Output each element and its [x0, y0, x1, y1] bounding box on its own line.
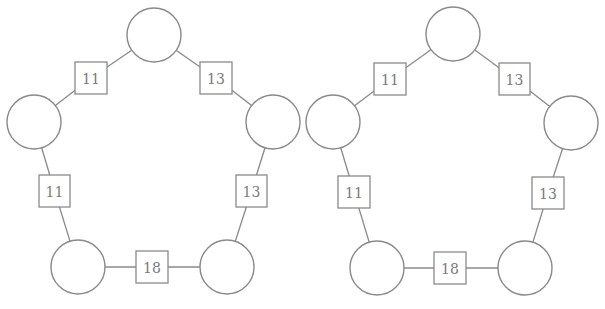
empty-circle — [544, 96, 598, 150]
value-box-bottom: 18 — [434, 252, 466, 284]
box-value: 11 — [82, 71, 100, 87]
circle-node-bottom-left — [350, 241, 404, 295]
value-box-bottom: 18 — [136, 251, 168, 283]
empty-circle — [498, 241, 552, 295]
box-value: 11 — [381, 72, 399, 88]
empty-circle — [51, 240, 105, 294]
box-value: 18 — [143, 260, 161, 276]
circle-node-bottom-right — [498, 241, 552, 295]
empty-circle — [200, 240, 254, 294]
value-box-top-left: 11 — [374, 63, 406, 95]
value-box-right: 13 — [532, 177, 564, 209]
value-box-top-right: 13 — [499, 63, 530, 95]
value-box-left: 11 — [338, 176, 370, 208]
value-box-right: 13 — [236, 175, 267, 207]
empty-circle — [7, 95, 61, 149]
box-value: 11 — [46, 184, 64, 200]
value-box-top-right: 13 — [200, 62, 232, 94]
empty-circle — [127, 8, 181, 62]
box-value: 13 — [506, 72, 524, 88]
empty-circle — [426, 7, 480, 61]
circle-node-bottom-left — [51, 240, 105, 294]
circle-node-left — [7, 95, 61, 149]
edges-layer — [34, 34, 571, 268]
diagram-canvas: 11131113181113111318 — [0, 0, 605, 309]
circle-node-top — [127, 8, 181, 62]
empty-circle — [306, 95, 360, 149]
nodes-layer — [7, 7, 598, 295]
empty-circle — [350, 241, 404, 295]
circle-node-right — [246, 95, 300, 149]
box-value: 13 — [539, 186, 557, 202]
circle-node-right — [544, 96, 598, 150]
box-value: 13 — [207, 71, 225, 87]
value-box-left: 11 — [39, 175, 70, 207]
box-value: 18 — [441, 261, 459, 277]
circle-node-bottom-right — [200, 240, 254, 294]
circle-node-top — [426, 7, 480, 61]
circle-node-left — [306, 95, 360, 149]
box-value: 13 — [243, 184, 261, 200]
empty-circle — [246, 95, 300, 149]
box-value: 11 — [345, 185, 363, 201]
boxes-layer: 11131113181113111318 — [39, 62, 564, 284]
value-box-top-left: 11 — [75, 62, 107, 94]
